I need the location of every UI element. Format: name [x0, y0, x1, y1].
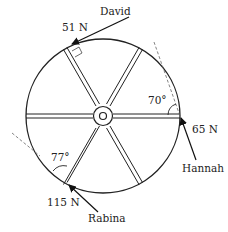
hub-inner — [100, 113, 107, 120]
right-angle-marker — [72, 47, 82, 57]
rabina-tangent-dashed — [12, 133, 40, 156]
rabina-force-label: 115 N — [47, 196, 80, 208]
rabina-label: Rabina — [88, 212, 126, 224]
wheel-force-diagram: David 51 N 70° 65 N Hannah 77° 115 N Rab… — [0, 0, 228, 232]
hannah-angle-arc — [168, 104, 176, 115]
hannah-angle-label: 70° — [148, 94, 167, 106]
rabina-angle-label: 77° — [51, 151, 70, 163]
rabina-angle-arc — [53, 166, 67, 171]
david-label: David — [100, 5, 131, 17]
hannah-force-label: 65 N — [192, 123, 218, 135]
david-force-label: 51 N — [62, 21, 88, 33]
hannah-label: Hannah — [182, 162, 224, 174]
